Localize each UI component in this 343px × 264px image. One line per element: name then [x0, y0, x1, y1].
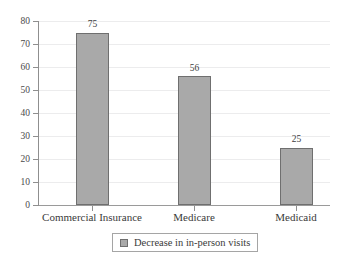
y-tick-mark-0 [33, 205, 38, 206]
bar-chart-figure: 80 70 60 50 40 30 20 10 0 75 56 25 Comme… [0, 0, 343, 264]
y-tick-mark-20 [33, 159, 38, 160]
y-tick-mark-30 [33, 136, 38, 137]
y-axis-line [38, 21, 39, 206]
axis-baseline [38, 205, 330, 206]
y-tick-label-30: 30 [6, 132, 30, 141]
y-tick-label-20: 20 [6, 155, 30, 164]
y-tick-mark-50 [33, 90, 38, 91]
y-tick-mark-80 [33, 21, 38, 22]
bar-value-medicaid: 25 [277, 134, 317, 144]
legend-entry-label: Decrease in in-person visits [134, 237, 250, 248]
legend-swatch-icon [120, 239, 128, 247]
bar-commercial-insurance[interactable] [76, 33, 109, 206]
bar-medicare[interactable] [178, 76, 211, 205]
y-tick-mark-70 [33, 44, 38, 45]
y-tick-mark-60 [33, 67, 38, 68]
bar-value-medicare: 56 [175, 63, 215, 73]
y-tick-label-0: 0 [6, 201, 30, 210]
x-axis-label-commercial-insurance: Commercial Insurance [37, 211, 147, 224]
x-axis-label-medicare: Medicare [154, 211, 234, 224]
chart-legend[interactable]: Decrease in in-person visits [112, 233, 258, 252]
y-tick-label-10: 10 [6, 178, 30, 187]
x-axis-label-medicaid: Medicaid [256, 211, 336, 224]
y-tick-label-50: 50 [6, 86, 30, 95]
bar-value-commercial-insurance: 75 [73, 19, 113, 29]
y-tick-label-80: 80 [6, 17, 30, 26]
y-tick-label-70: 70 [6, 40, 30, 49]
y-tick-label-60: 60 [6, 63, 30, 72]
bar-medicaid[interactable] [280, 148, 313, 206]
y-tick-label-40: 40 [6, 109, 30, 118]
y-tick-mark-10 [33, 182, 38, 183]
y-tick-mark-40 [33, 113, 38, 114]
